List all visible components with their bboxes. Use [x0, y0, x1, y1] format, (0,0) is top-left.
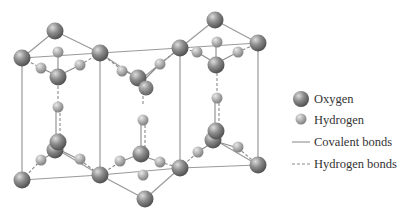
- legend-item-covalent: Covalent bonds: [292, 135, 401, 155]
- dashed-line-icon: [292, 157, 310, 171]
- legend-item-hydrogen-bonds: Hydrogen bonds: [292, 157, 401, 177]
- oxygen-sphere-icon: [292, 90, 310, 108]
- legend-label-hydrogen: Hydrogen: [314, 113, 364, 127]
- solid-line-icon: [292, 135, 310, 149]
- legend-label-hydrogen-bonds: Hydrogen bonds: [314, 157, 397, 171]
- legend-label-covalent: Covalent bonds: [314, 135, 392, 149]
- legend-label-oxygen: Oxygen: [314, 92, 354, 106]
- legend-item-oxygen: Oxygen: [292, 92, 401, 112]
- legend-item-hydrogen: Hydrogen: [292, 113, 401, 133]
- hydrogen-sphere-icon: [292, 111, 310, 129]
